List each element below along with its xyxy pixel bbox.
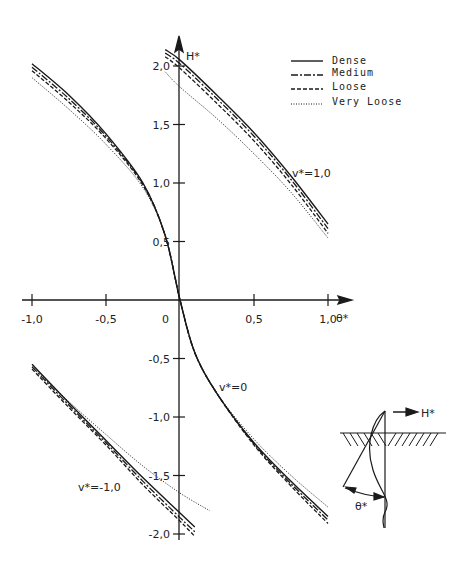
curve-v-1-0-very-loose — [165, 72, 328, 238]
y-tick-label: -2,0 — [149, 528, 170, 541]
y-tick-label: 1,5 — [153, 119, 171, 132]
annotation-v-zero: v*=0 — [219, 381, 247, 394]
annotation-v-pos: v*=1,0 — [292, 167, 331, 180]
x-axis-label: θ* — [336, 312, 349, 325]
annotation-v-neg: v*=-1,0 — [78, 481, 121, 494]
legend-label-loose: Loose — [332, 81, 367, 92]
x-tick-label: -0,5 — [95, 313, 116, 326]
curve-v-1-0-dense — [165, 50, 328, 224]
angle-arrow-icon-2 — [374, 493, 384, 500]
y-tick-label: 2,0 — [153, 60, 171, 73]
curve-v-0-very-loose — [32, 78, 328, 507]
inset-force-label: H* — [421, 407, 435, 420]
y-tick-label: -0,5 — [149, 353, 170, 366]
soil-hatching — [343, 433, 438, 446]
legend-label-medium: Medium — [332, 67, 374, 78]
curve-v-0-medium — [32, 67, 328, 520]
y-axis-arrow-icon — [175, 36, 183, 52]
x-tick-label: 1,0 — [319, 313, 337, 326]
curve-v-1-0-loose — [165, 57, 328, 234]
y-tick-label: 0,5 — [153, 236, 171, 249]
x-tick-label: -1,0 — [21, 313, 42, 326]
curve-v-1-0-loose — [32, 369, 195, 536]
x-axis-arrow-icon — [338, 296, 352, 304]
curve-v-1-0-dense — [32, 364, 195, 527]
y-tick-label: 1,0 — [153, 177, 171, 190]
angle-arrow-icon — [346, 487, 356, 493]
curve-v-1-0-very-loose — [32, 367, 210, 511]
legend: Dense Medium Loose Very Loose — [291, 55, 402, 107]
origin-label: 0 — [162, 313, 169, 326]
rotation-line — [343, 411, 385, 487]
curve-v-0-dense — [32, 64, 328, 517]
curve-v-1-0-medium — [165, 53, 328, 229]
y-axis-label: H* — [186, 50, 200, 63]
curve-v-1-0-medium — [32, 367, 195, 532]
y-tick-label: -1,0 — [149, 411, 170, 424]
legend-label-dense: Dense — [332, 55, 367, 66]
force-arrow-icon — [406, 408, 418, 416]
inset-angle-label: θ* — [355, 500, 368, 513]
y-tick-label: -1,5 — [149, 470, 170, 483]
curves — [32, 50, 328, 537]
x-tick-label: 0,5 — [245, 313, 263, 326]
chart: -1,0-0,50,51,02,01,51,00,5-0,5-1,0-1,5-2… — [0, 0, 470, 573]
legend-label-very-loose: Very Loose — [332, 96, 402, 107]
